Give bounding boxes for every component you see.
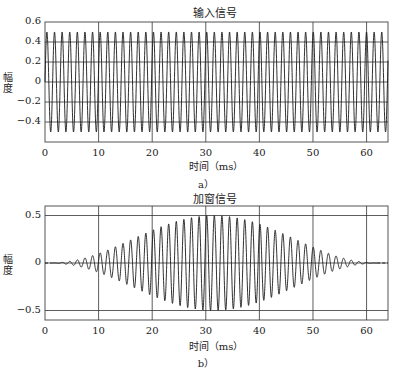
panel-a-ytick-label: 0.2	[25, 55, 41, 66]
panel-b-ytick-label: 0.5	[25, 209, 41, 220]
panel-a-ytick-label: 0.6	[25, 15, 41, 26]
panel-a-ytick-label: −0.2	[17, 95, 41, 106]
panel-a-xtick-label: 0	[30, 147, 60, 158]
panel-b-caption: b）	[196, 355, 216, 370]
panel-b-ytick-label: 0	[35, 256, 41, 267]
panel-a-ylabel: 幅度	[2, 72, 14, 94]
panel-b-xtick-label: 60	[352, 325, 382, 336]
panel-b-ylabel: 幅度	[2, 254, 14, 276]
panel-b-xtick-label: 30	[191, 325, 221, 336]
panel-a-ytick-label: 0	[35, 75, 41, 86]
panel-b-xtick-label: 0	[30, 325, 60, 336]
panel-b-ytick-label: −0.5	[17, 304, 41, 315]
panel-a-xtick-label: 10	[84, 147, 114, 158]
panel-a-xlabel: 时间（ms）	[166, 158, 266, 173]
panel-a-xtick-label: 60	[352, 147, 382, 158]
panel-b-xtick-label: 10	[84, 325, 114, 336]
panel-a-ytick-label: −0.4	[17, 115, 41, 126]
panel-a-title: 输入信号	[165, 4, 265, 20]
panel-a-xtick-label: 50	[298, 147, 328, 158]
panel-a-xtick-label: 20	[137, 147, 167, 158]
panel-a-ytick-label: 0.4	[25, 35, 41, 46]
panel-b-xtick-label: 40	[244, 325, 274, 336]
panel-a-xtick-label: 40	[244, 147, 274, 158]
panel-b-title: 加窗信号	[165, 190, 265, 206]
panel-a-xtick-label: 30	[191, 147, 221, 158]
panel-b-xtick-label: 50	[298, 325, 328, 336]
panel-a-caption: a）	[196, 176, 216, 191]
panel-b-xlabel: 时间（ms）	[166, 338, 266, 353]
panel-b-xtick-label: 20	[137, 325, 167, 336]
